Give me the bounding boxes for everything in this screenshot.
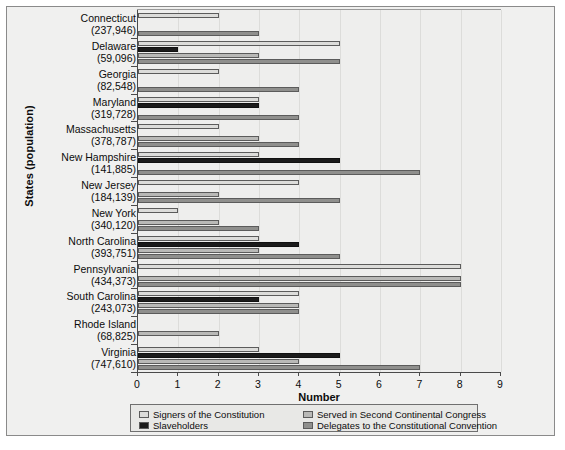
bar (138, 276, 461, 281)
bar (138, 282, 461, 287)
bar (138, 242, 299, 247)
bar (138, 353, 340, 358)
bar (138, 347, 259, 352)
y-tick (131, 38, 137, 39)
bar (138, 13, 219, 18)
bar (138, 331, 219, 336)
state-name: New Hampshire (24, 151, 136, 163)
bar (138, 208, 178, 213)
state-population: (434,373) (24, 275, 136, 287)
x-tick (177, 372, 178, 376)
y-tick (131, 288, 137, 289)
y-axis-labels: Connecticut(237,946)Delaware(59,096)Geor… (24, 10, 136, 372)
gridline (299, 10, 300, 372)
x-tick (258, 372, 259, 376)
legend-label: Served in Second Continental Congress (317, 409, 486, 420)
y-axis-label: Pennsylvania(434,373) (24, 263, 136, 287)
bar (138, 59, 340, 64)
gridline (259, 10, 260, 372)
bar (138, 41, 340, 46)
state-population: (184,139) (24, 191, 136, 203)
bar (138, 142, 299, 147)
state-population: (378,787) (24, 135, 136, 147)
chart-root: States (population) Connecticut(237,946)… (0, 0, 565, 450)
y-tick (131, 94, 137, 95)
bar (138, 31, 259, 36)
x-tick-label: 5 (329, 378, 349, 390)
bar (138, 152, 259, 157)
y-tick (131, 121, 137, 122)
y-axis-label: New Hampshire(141,885) (24, 151, 136, 175)
x-tick (500, 372, 501, 376)
legend-label: Signers of the Constitution (153, 409, 264, 420)
bar (138, 254, 340, 259)
bar (138, 291, 299, 296)
plot-area (137, 10, 500, 372)
x-tick-label: 1 (167, 378, 187, 390)
bar (138, 236, 259, 241)
y-axis-label: Delaware(59,096) (24, 40, 136, 64)
x-axis-title: Number (137, 391, 501, 403)
y-tick (131, 149, 137, 150)
state-name: Connecticut (24, 12, 136, 24)
x-tick-label: 7 (409, 378, 429, 390)
bar (138, 53, 259, 58)
gridline (178, 10, 179, 372)
state-population: (59,096) (24, 52, 136, 64)
legend-label: Delegates to the Constitutional Conventi… (317, 420, 497, 431)
x-tick-label: 3 (248, 378, 268, 390)
gridline (340, 10, 341, 372)
state-population: (82,548) (24, 80, 136, 92)
y-tick (131, 316, 137, 317)
state-population: (393,751) (24, 247, 136, 259)
bar (138, 69, 219, 74)
y-axis-label: Maryland(319,728) (24, 96, 136, 120)
bar (138, 359, 299, 364)
state-name: New York (24, 207, 136, 219)
legend-swatch-icon (303, 422, 313, 429)
bar (138, 136, 259, 141)
chart-legend: Signers of the ConstitutionServed in Sec… (130, 404, 478, 432)
y-axis-label: New York(340,120) (24, 207, 136, 231)
bar (138, 97, 259, 102)
y-axis-label: Rhode Island(68,825) (24, 318, 136, 342)
state-population: (319,728) (24, 108, 136, 120)
y-tick (131, 177, 137, 178)
legend-entry[interactable]: Slaveholders (139, 419, 208, 431)
legend-swatch-icon (303, 411, 313, 418)
gridline (380, 10, 381, 372)
y-tick (131, 372, 137, 373)
legend-entry[interactable]: Delegates to the Constitutional Conventi… (303, 419, 497, 431)
state-population: (340,120) (24, 219, 136, 231)
bar (138, 297, 259, 302)
state-name: Delaware (24, 40, 136, 52)
state-name: North Carolina (24, 235, 136, 247)
bar (138, 220, 219, 225)
state-name: Pennsylvania (24, 263, 136, 275)
bar (138, 170, 420, 175)
y-axis-label: Massachusetts(378,787) (24, 123, 136, 147)
gridline (219, 10, 220, 372)
x-tick-label: 4 (288, 378, 308, 390)
bar (138, 192, 219, 197)
y-tick (131, 205, 137, 206)
gridline (461, 10, 462, 372)
x-axis-line (137, 372, 501, 373)
state-population: (243,073) (24, 302, 136, 314)
x-tick (218, 372, 219, 376)
x-tick-label: 2 (208, 378, 228, 390)
y-axis-label: Connecticut(237,946) (24, 12, 136, 36)
bar (138, 264, 461, 269)
bar (138, 158, 340, 163)
y-axis-label: North Carolina(393,751) (24, 235, 136, 259)
x-tick (137, 372, 138, 376)
y-axis-label: New Jersey(184,139) (24, 179, 136, 203)
state-population: (68,825) (24, 330, 136, 342)
state-name: Virginia (24, 346, 136, 358)
y-axis-label: South Carolina(243,073) (24, 290, 136, 314)
y-tick (131, 233, 137, 234)
state-population: (141,885) (24, 163, 136, 175)
x-tick (298, 372, 299, 376)
x-tick-label: 9 (490, 378, 510, 390)
x-tick (460, 372, 461, 376)
